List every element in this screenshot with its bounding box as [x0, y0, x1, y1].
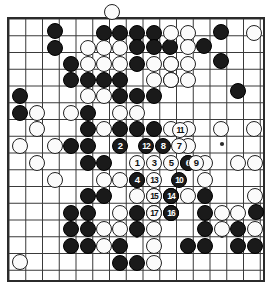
numbered-white-stone-1: 1 [129, 155, 146, 172]
numbered-black-stone-4: 4 [129, 172, 146, 189]
numbered-black-stone-8: 8 [155, 138, 172, 155]
move-number-label: 17 [147, 206, 162, 221]
move-number-label: 7 [172, 139, 187, 154]
numbered-white-stone-5: 5 [163, 155, 180, 172]
numbered-black-stone-12: 12 [138, 138, 155, 155]
move-number-label: 9 [189, 156, 204, 171]
numbered-white-stone-11: 11 [172, 122, 189, 139]
numbered-white-stone-13: 13 [146, 172, 163, 189]
move-number-label: 4 [130, 173, 145, 188]
move-number-label: 14 [164, 189, 179, 204]
move-number-label: 15 [147, 189, 162, 204]
move-number-label: 1 [130, 156, 145, 171]
go-board-figure: 1234567891011121314151617 [0, 0, 273, 300]
move-number-label: 13 [147, 173, 162, 188]
move-number-label: 5 [164, 156, 179, 171]
move-number-label: 2 [113, 139, 128, 154]
numbered-black-stone-14: 14 [163, 188, 180, 205]
move-number-label: 11 [173, 123, 188, 138]
move-number-label: 10 [172, 173, 187, 188]
numbered-white-stone-15: 15 [146, 188, 163, 205]
numbered-white-stone-3: 3 [146, 155, 163, 172]
numbered-white-stone-17: 17 [146, 205, 163, 222]
numbered-black-stone-16: 16 [163, 205, 180, 222]
star-point [220, 142, 224, 146]
numbered-white-stone-9: 9 [188, 155, 205, 172]
numbered-black-stone-2: 2 [112, 138, 129, 155]
move-number-label: 16 [164, 206, 179, 221]
move-number-label: 3 [147, 156, 162, 171]
move-number-label: 8 [156, 139, 171, 154]
numbered-black-stone-10: 10 [171, 172, 188, 189]
move-number-label: 12 [139, 139, 154, 154]
numbered-white-stone-7: 7 [171, 138, 188, 155]
